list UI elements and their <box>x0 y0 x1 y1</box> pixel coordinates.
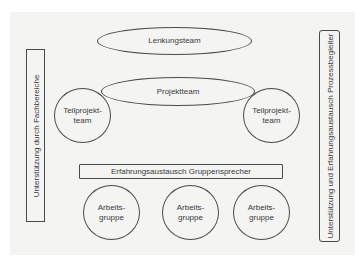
subproject-team-label-line2: team <box>252 116 291 126</box>
subproject-team-circle-left: Teilprojekt- team <box>54 88 111 143</box>
subproject-team-label-line1: Teilprojekt- <box>252 106 291 116</box>
project-team-label: Projektteam <box>157 87 200 97</box>
steering-team-ellipse: Lenkungsteam <box>97 27 252 55</box>
working-group-label-line1: Arbeits- <box>98 203 126 213</box>
group-speakers-exchange-box: Erfahrungsaustausch Gruppensprecher <box>79 164 283 179</box>
working-group-circle-2: Arbeits- gruppe <box>162 185 219 240</box>
project-team-ellipse: Projektteam <box>101 77 255 106</box>
subproject-team-label-line1: Teilprojekt- <box>63 106 102 116</box>
support-departments-box: Unterstützung durch Fachbereiche <box>26 49 45 222</box>
support-process-facilitators-label: Unterstützung und Erfahrungsaustausch Pr… <box>325 33 334 238</box>
working-group-label-line2: gruppe <box>98 213 126 223</box>
working-group-circle-1: Arbeits- gruppe <box>83 185 140 240</box>
support-process-facilitators-box: Unterstützung und Erfahrungsaustausch Pr… <box>319 30 340 242</box>
subproject-team-label-line2: team <box>63 116 102 126</box>
group-speakers-exchange-label: Erfahrungsaustausch Gruppensprecher <box>111 167 251 177</box>
working-group-label-line2: gruppe <box>248 213 276 223</box>
steering-team-label: Lenkungsteam <box>148 36 200 46</box>
working-group-label-line1: Arbeits- <box>177 203 205 213</box>
support-departments-label: Unterstützung durch Fachbereiche <box>31 74 40 197</box>
working-group-label-line2: gruppe <box>177 213 205 223</box>
subproject-team-circle-right: Teilprojekt- team <box>243 88 300 143</box>
working-group-label-line1: Arbeits- <box>248 203 276 213</box>
working-group-circle-3: Arbeits- gruppe <box>233 185 290 240</box>
